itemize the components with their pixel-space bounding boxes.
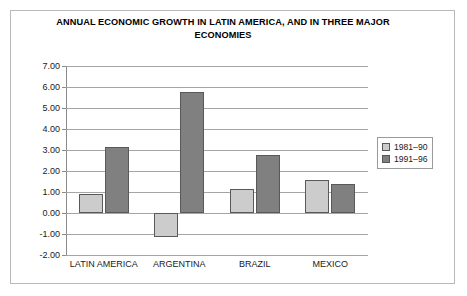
y-axis-tick-mark (62, 255, 66, 256)
y-axis-tick-mark (62, 108, 66, 109)
x-axis-tick-labels: LATIN AMERICAARGENTINABRAZILMEXICO (66, 259, 368, 275)
bar (154, 213, 178, 237)
chart-title: ANNUAL ECONOMIC GROWTH IN LATIN AMERICA,… (34, 16, 412, 41)
gridline (66, 213, 368, 214)
bar (331, 184, 355, 213)
chart-legend[interactable]: 1981–901991–96 (377, 137, 433, 169)
x-axis-tick-label: MEXICO (312, 259, 348, 269)
y-axis-tick-label: 7.00 (16, 61, 60, 71)
bar (256, 155, 280, 213)
y-axis-tick-labels: 7.006.005.004.003.002.001.000.00-1.00-2.… (12, 66, 60, 256)
y-axis-tick-label: 2.00 (16, 166, 60, 176)
legend-item[interactable]: 1981–90 (382, 141, 427, 153)
y-axis-tick-mark (62, 192, 66, 193)
x-axis-tick-label: LATIN AMERICA (70, 259, 138, 269)
bar (79, 194, 103, 213)
gridline (66, 108, 368, 109)
bar (180, 92, 204, 213)
y-axis-tick-label: 3.00 (16, 145, 60, 155)
y-axis-tick-mark (62, 150, 66, 151)
y-axis-tick-label: 4.00 (16, 124, 60, 134)
gridline (66, 87, 368, 88)
plot-area (66, 66, 368, 255)
y-axis-tick-label: 6.00 (16, 82, 60, 92)
x-axis-tick-label: ARGENTINA (153, 259, 206, 269)
x-axis-tick-label: BRAZIL (239, 259, 271, 269)
bar (230, 189, 254, 213)
bar (105, 147, 129, 213)
y-axis-tick-label: 5.00 (16, 103, 60, 113)
gridline (66, 66, 368, 67)
y-axis-tick-mark (62, 234, 66, 235)
legend-label: 1981–90 (394, 142, 427, 152)
legend-label: 1991–96 (394, 154, 427, 164)
y-axis-tick-mark (62, 129, 66, 130)
y-axis-tick-label: -1.00 (16, 229, 60, 239)
legend-item[interactable]: 1991–96 (382, 153, 427, 165)
y-axis-tick-mark (62, 87, 66, 88)
y-axis-tick-mark (62, 171, 66, 172)
legend-swatch-icon (382, 143, 390, 151)
y-axis-tick-mark (62, 66, 66, 67)
y-axis-tick-label: -2.00 (16, 250, 60, 260)
gridline (66, 255, 368, 256)
y-axis-tick-mark (62, 213, 66, 214)
gridline (66, 129, 368, 130)
chart-figure: ANNUAL ECONOMIC GROWTH IN LATIN AMERICA,… (0, 0, 467, 296)
bar (305, 180, 329, 213)
gridline (66, 234, 368, 235)
legend-swatch-icon (382, 155, 390, 163)
y-axis-tick-label: 1.00 (16, 187, 60, 197)
y-axis-tick-label: 0.00 (16, 208, 60, 218)
